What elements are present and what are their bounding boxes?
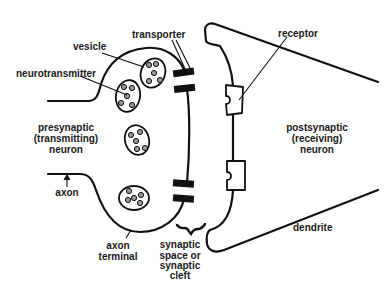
receptors (226, 85, 245, 190)
svg-text:synaptic: synaptic (160, 239, 201, 250)
vesicle-icon (119, 186, 149, 210)
label-synaptic-cleft: synaptic space or synaptic cleft (159, 239, 200, 281)
presynaptic-membrane-bottom (48, 174, 184, 232)
label-transporter: transporter (132, 29, 185, 40)
presynaptic-membrane-right (187, 89, 189, 183)
label-axon-terminal: axon terminal (99, 240, 138, 262)
transporter-icon (173, 67, 195, 77)
label-vesicle: vesicle (73, 41, 107, 52)
svg-text:axon: axon (106, 240, 129, 251)
receptor-pointer (239, 37, 287, 100)
synapse-diagram: transporter vesicle neurotransmitter rec… (0, 0, 388, 290)
svg-text:presynaptic: presynaptic (38, 122, 95, 133)
receptor-icon (227, 161, 245, 190)
transporter-icon (174, 84, 196, 93)
synaptic-cleft-brace (177, 224, 205, 234)
svg-text:neuron: neuron (49, 144, 83, 155)
svg-text:cleft: cleft (170, 270, 191, 281)
receptor-icon (226, 85, 243, 115)
svg-text:postsynaptic: postsynaptic (286, 122, 348, 133)
label-presynaptic: presynaptic (transmitting) neuron (34, 122, 98, 155)
label-receptor: receptor (278, 28, 318, 39)
svg-text:terminal: terminal (99, 251, 138, 262)
label-postsynaptic: postsynaptic (receiving) neuron (286, 122, 348, 155)
label-dendrite: dendrite (293, 222, 333, 233)
transporter-icon (173, 179, 194, 187)
label-neurotransmitter: neurotransmitter (16, 68, 96, 79)
svg-text:(receiving): (receiving) (292, 133, 343, 144)
axon-arrowhead (64, 175, 70, 180)
vesicle-icon (122, 122, 153, 157)
vesicle-icon (137, 55, 170, 91)
vesicles (113, 55, 169, 210)
label-axon: axon (55, 187, 78, 198)
transporters (173, 67, 196, 202)
vesicle-icon (113, 78, 142, 114)
transporter-icon (173, 194, 194, 202)
svg-text:(transmitting): (transmitting) (34, 133, 98, 144)
svg-text:neuron: neuron (300, 144, 334, 155)
postsynaptic-membrane-lower (207, 190, 378, 252)
